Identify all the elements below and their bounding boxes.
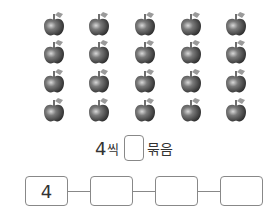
connector-line	[68, 191, 90, 192]
skip-count-box-3[interactable]	[155, 176, 198, 206]
apple-icon	[43, 12, 65, 36]
apple-icon	[180, 98, 202, 122]
skip-count-box-4[interactable]	[220, 176, 263, 206]
apple-icon	[225, 40, 247, 64]
skip-count-box-2[interactable]	[90, 176, 133, 206]
skip-count-box-1: 4	[25, 176, 68, 206]
apple-icon	[88, 40, 110, 64]
apple-icon	[43, 40, 65, 64]
apple-icon	[88, 98, 110, 122]
apple-icon	[225, 12, 247, 36]
apple-icon	[180, 12, 202, 36]
apple-icon	[180, 69, 202, 93]
apple-icon	[134, 98, 156, 122]
apple-icon	[88, 69, 110, 93]
connector-line	[198, 191, 220, 192]
apple-icon	[134, 69, 156, 93]
apple-icon	[43, 69, 65, 93]
apple-icon	[225, 69, 247, 93]
apple-icon	[225, 98, 247, 122]
connector-line	[133, 191, 155, 192]
apple-icon	[180, 40, 202, 64]
group-unit: 씩	[107, 139, 119, 158]
grouping-sentence: 4 씩 묶음	[95, 135, 173, 161]
group-size: 4	[95, 138, 106, 159]
apple-icon	[134, 12, 156, 36]
group-count-input[interactable]	[124, 135, 144, 161]
apple-icon	[88, 12, 110, 36]
apple-icon	[134, 40, 156, 64]
apple-icon	[43, 98, 65, 122]
group-word: 묶음	[147, 138, 173, 158]
